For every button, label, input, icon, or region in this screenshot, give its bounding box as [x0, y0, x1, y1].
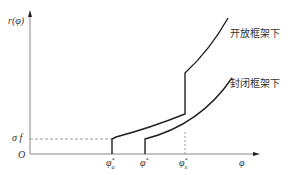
- y-axis-label: r(φ): [8, 16, 24, 26]
- origin-label: O: [18, 150, 25, 160]
- x-tick-phi-a: φ*a: [106, 157, 115, 170]
- curve-closed-frame-line: [145, 128, 186, 139]
- x-tick-phi-star: φ*: [140, 157, 149, 168]
- x-axis-label: φ: [239, 158, 245, 168]
- legend-open-frame: 开放框架下: [230, 29, 280, 39]
- x-tick-phi-x: φ*x: [179, 157, 187, 170]
- sigma-f-label: σ f: [12, 133, 22, 143]
- legend-closed-frame: 封闭框架下: [230, 79, 280, 89]
